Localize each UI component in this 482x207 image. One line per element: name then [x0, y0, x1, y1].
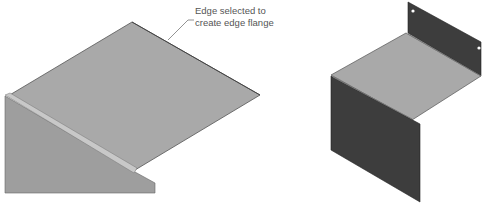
- after-part: [331, 2, 481, 202]
- callout-line-2: create edge flange: [195, 17, 274, 28]
- back-flange-hole-right: [477, 46, 480, 49]
- callout-line-1: Edge selected to: [195, 5, 266, 16]
- before-part: [5, 22, 260, 193]
- callout: Edge selected to create edge flange: [168, 5, 274, 40]
- leader-line: [168, 20, 194, 40]
- back-flange-hole-left: [411, 9, 414, 12]
- figure-canvas: Edge selected to create edge flange: [0, 0, 482, 207]
